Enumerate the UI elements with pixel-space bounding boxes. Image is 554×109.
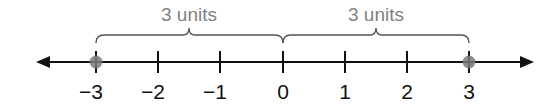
arrow-right-icon — [520, 56, 534, 68]
brace-left — [96, 28, 283, 43]
brace-right — [283, 28, 469, 43]
brace-label-right: 3 units — [348, 4, 404, 26]
tick-label: 3 — [463, 80, 475, 104]
arrow-left-icon — [36, 56, 50, 68]
point-3 — [463, 56, 476, 69]
tick-label: −1 — [203, 80, 227, 104]
tick-label: 2 — [401, 80, 413, 104]
tick-label: −3 — [79, 80, 103, 104]
point-neg3 — [90, 56, 103, 69]
tick-label: 0 — [277, 80, 289, 104]
tick-label: −2 — [141, 80, 165, 104]
tick-label: 1 — [339, 80, 351, 104]
brace-label-left: 3 units — [161, 4, 217, 26]
